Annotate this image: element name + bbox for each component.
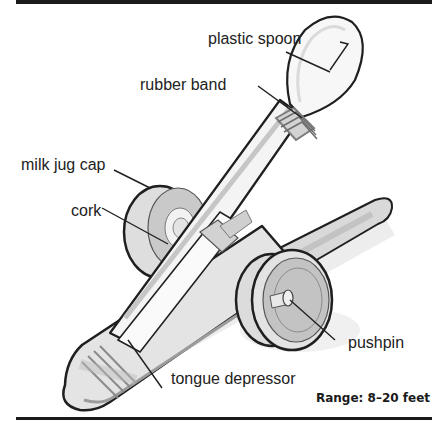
label-plastic-spoon: plastic spoon [208,31,301,47]
label-rubber-band: rubber band [140,77,226,93]
range-note: Range: 8–20 feet [316,391,430,405]
label-tongue-depressor: tongue depressor [171,371,296,387]
bottom-rule [16,417,432,420]
label-pushpin: pushpin [348,335,404,351]
leader-milk-jug-cap [114,170,150,188]
catapult-illustration [0,0,448,430]
label-cork: cork [71,203,101,219]
label-milk-jug-cap: milk jug cap [21,157,105,173]
right-wheel-milk-jug-cap [236,250,332,350]
